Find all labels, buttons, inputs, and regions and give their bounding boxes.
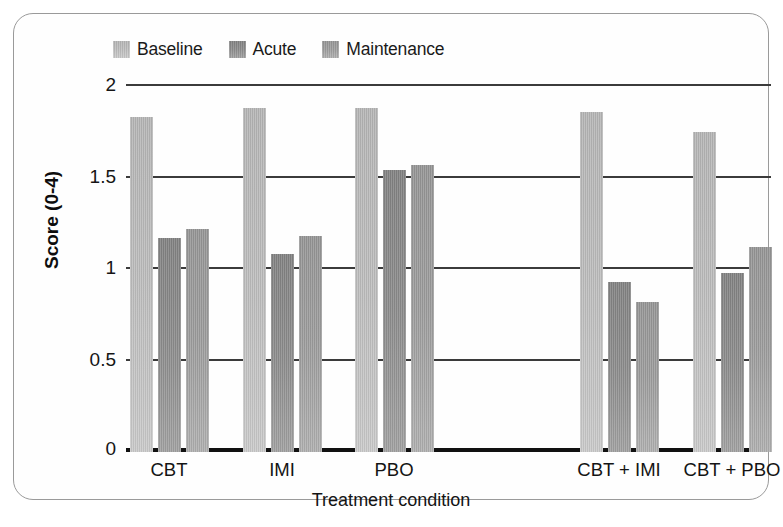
- bar-acute-cbt: [158, 238, 181, 452]
- bar-maintenance-pbo: [411, 165, 434, 452]
- y-axis-title: Score (0-4): [42, 171, 61, 269]
- y-tick-label: 2: [105, 75, 116, 94]
- y-tick-label: 1.5: [90, 166, 116, 185]
- bar-maintenance-cbt-plus-imi: [636, 302, 659, 452]
- legend-label-baseline: Baseline: [137, 41, 203, 59]
- bar-baseline-imi: [243, 108, 266, 452]
- chart-legend: Baseline Acute Maintenance: [113, 41, 470, 59]
- legend-label-maintenance: Maintenance: [346, 41, 444, 59]
- x-tick-label: CBT: [151, 461, 188, 480]
- plot-area: 00.511.52: [126, 86, 771, 452]
- figure-frame: Baseline Acute Maintenance Score (0-4) 0…: [13, 13, 769, 500]
- legend-item-maintenance: Maintenance: [322, 41, 444, 59]
- bar-acute-cbt-plus-imi: [608, 282, 631, 452]
- y-tick-label: 0: [105, 439, 116, 458]
- bar-acute-imi: [271, 254, 294, 452]
- bar-baseline-pbo: [355, 108, 378, 452]
- bar-acute-cbt-plus-pbo: [721, 273, 744, 452]
- x-axis-title: Treatment condition: [14, 491, 768, 509]
- bar-series-container: [126, 86, 771, 452]
- y-tick-label: 1: [105, 258, 116, 277]
- x-tick-label: IMI: [269, 461, 295, 480]
- legend-swatch-acute: [229, 41, 246, 58]
- bar-baseline-cbt-plus-pbo: [693, 132, 716, 452]
- bar-maintenance-cbt: [186, 229, 209, 452]
- bar-baseline-cbt-plus-imi: [580, 112, 603, 452]
- bar-maintenance-imi: [299, 236, 322, 452]
- x-tick-label: CBT + PBO: [684, 461, 781, 480]
- legend-swatch-baseline: [113, 41, 130, 58]
- x-tick-label: PBO: [374, 461, 413, 480]
- bar-baseline-cbt: [130, 117, 153, 452]
- y-tick-label: 0.5: [90, 349, 116, 368]
- legend-swatch-maintenance: [322, 41, 339, 58]
- x-tick-label: CBT + IMI: [577, 461, 660, 480]
- legend-label-acute: Acute: [253, 41, 297, 59]
- legend-item-acute: Acute: [229, 41, 297, 59]
- legend-item-baseline: Baseline: [113, 41, 203, 59]
- bar-maintenance-cbt-plus-pbo: [749, 247, 772, 452]
- bar-acute-pbo: [383, 170, 406, 452]
